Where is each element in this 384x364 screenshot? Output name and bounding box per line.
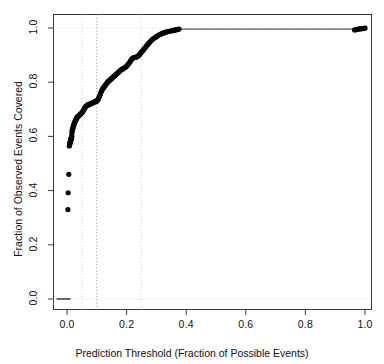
y-tick-label: 0.8 (27, 70, 39, 92)
y-tick-label: 1.0 (27, 16, 39, 38)
y-axis-title: Fraction of Observed Events Covered (12, 69, 24, 269)
x-tick-label: 0.8 (298, 318, 313, 330)
x-axis-title: Prediction Threshold (Fraction of Possib… (0, 347, 384, 359)
x-tick-label: 0.2 (119, 318, 134, 330)
axis-tick-marks (48, 28, 365, 315)
data-points-group (65, 25, 367, 212)
y-tick-label: 0.6 (27, 124, 39, 146)
y-tick-label: 0.2 (27, 233, 39, 255)
y-tick-label: 0.0 (27, 287, 39, 309)
y-tick-label: 0.4 (27, 179, 39, 201)
x-tick-label: 0.0 (59, 318, 74, 330)
x-tick-label: 0.6 (238, 318, 253, 330)
chart-canvas (0, 0, 384, 364)
x-tick-label: 1.0 (357, 318, 372, 330)
x-tick-label: 0.4 (179, 318, 194, 330)
reference-lines-group (54, 15, 372, 310)
chart-figure: 0.00.20.40.60.81.0 0.00.20.40.60.81.0 Pr… (0, 0, 384, 364)
